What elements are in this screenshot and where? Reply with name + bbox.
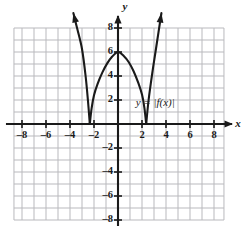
- x-axis-label: x: [235, 118, 241, 129]
- x-tick-label: –2: [89, 130, 100, 141]
- curve-start-arrowhead: [72, 13, 79, 23]
- y-tick-label: 6: [108, 46, 113, 57]
- y-tick-label: –2: [103, 142, 114, 153]
- graph-figure: –8–6–4–224688642–2–4–6–8xyy = |f(x)|: [0, 0, 246, 238]
- curve-end-arrowhead: [157, 13, 164, 23]
- x-tick-label: –6: [41, 130, 52, 141]
- y-tick-label: 8: [108, 22, 113, 33]
- x-tick-label: –4: [65, 130, 76, 141]
- x-axis-arrowhead: [225, 120, 234, 127]
- axes: [6, 15, 233, 226]
- x-tick-label: 4: [163, 130, 168, 141]
- x-tick-label: 6: [187, 130, 192, 141]
- y-tick-label: –4: [103, 166, 114, 177]
- x-tick-label: 2: [139, 130, 144, 141]
- coordinate-plane-svg: [0, 0, 246, 238]
- x-tick-label: –8: [17, 130, 28, 141]
- y-tick-label: 4: [108, 70, 113, 81]
- y-tick-label: –6: [103, 190, 114, 201]
- y-tick-label: 2: [108, 94, 113, 105]
- y-tick-label: –8: [103, 214, 114, 225]
- equation-annotation: y = |f(x)|: [136, 97, 175, 108]
- y-axis-arrowhead: [114, 15, 121, 24]
- y-axis-label: y: [123, 1, 128, 12]
- x-tick-label: 8: [211, 130, 216, 141]
